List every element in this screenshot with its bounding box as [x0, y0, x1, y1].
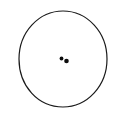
dot-right: [64, 59, 69, 64]
dot-left: [60, 57, 64, 61]
figure-canvas: [0, 0, 123, 117]
figure-svg: [0, 0, 123, 117]
